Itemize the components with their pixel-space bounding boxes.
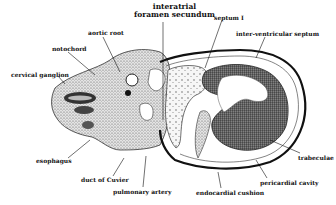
label-aortic-root: aortic root xyxy=(88,30,124,36)
label-septum-1: septum I xyxy=(214,15,244,21)
label-endocardial-cushion: endocardial cushion xyxy=(196,190,264,196)
body-tissue xyxy=(52,50,170,150)
label-esophagus: esophagus xyxy=(36,158,72,164)
anatomical-diagram: interatrial foramen secundum septum I in… xyxy=(0,0,336,205)
endocardial-cushion-shape xyxy=(195,111,210,158)
label-pericardial-cavity: pericardial cavity xyxy=(260,180,318,186)
label-pulmonary-artery: pulmonary artery xyxy=(113,189,171,195)
label-trabeculae: trabeculae xyxy=(298,155,334,161)
label-duct-of-cuvier: duct of Cuvier xyxy=(81,177,129,183)
label-notochord: notochord xyxy=(52,46,87,52)
label-interatrial-foramen: interatrial foramen secundum xyxy=(134,3,215,19)
label-cervical-ganglion: cervical ganglion xyxy=(11,72,69,78)
label-interventricular-septum: inter-ventricular septum xyxy=(236,31,319,37)
